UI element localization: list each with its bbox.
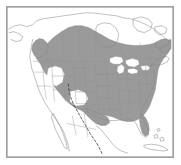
map-frame: [6, 6, 174, 158]
map-canvas: [7, 7, 173, 157]
range-map-figure: [0, 0, 181, 165]
